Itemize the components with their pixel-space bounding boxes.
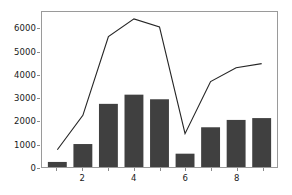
y-tick-mark xyxy=(37,168,40,169)
x-tick-label: 2 xyxy=(79,173,85,183)
y-tick-label: 6000 xyxy=(14,23,36,33)
y-tick-label: 5000 xyxy=(14,47,36,57)
series-layer xyxy=(42,12,277,167)
y-tick-mark xyxy=(37,75,40,76)
x-tick-mark xyxy=(185,168,186,171)
y-tick-mark xyxy=(37,98,40,99)
x-tick-mark-minor xyxy=(160,168,161,171)
bar xyxy=(227,120,246,167)
y-tick-label: 0 xyxy=(30,163,36,173)
y-tick-label: 4000 xyxy=(14,70,36,80)
x-tick-label: 6 xyxy=(182,173,188,183)
y-axis-tick-labels: 0100020003000400050006000 xyxy=(0,0,36,195)
y-tick-mark xyxy=(37,145,40,146)
bar xyxy=(125,95,144,167)
x-tick-mark-minor xyxy=(211,168,212,171)
x-tick-mark xyxy=(82,168,83,171)
x-tick-mark-minor xyxy=(108,168,109,171)
bar-series xyxy=(48,95,271,167)
bar xyxy=(176,154,195,167)
x-tick-mark-minor xyxy=(56,168,57,171)
plot-area xyxy=(41,11,278,168)
y-tick-label: 1000 xyxy=(14,140,36,150)
bar xyxy=(48,162,67,167)
x-tick-label: 4 xyxy=(131,173,137,183)
bar xyxy=(150,99,169,167)
y-tick-mark xyxy=(37,28,40,29)
y-tick-mark xyxy=(37,121,40,122)
x-tick-mark xyxy=(134,168,135,171)
bar xyxy=(201,127,220,167)
x-tick-mark xyxy=(237,168,238,171)
y-tick-mark xyxy=(37,52,40,53)
x-tick-mark-minor xyxy=(263,168,264,171)
bar xyxy=(99,104,118,167)
bar xyxy=(73,144,92,167)
y-tick-label: 3000 xyxy=(14,93,36,103)
bar xyxy=(252,118,271,167)
chart-figure: 0100020003000400050006000 2468 xyxy=(0,0,292,195)
x-tick-label: 8 xyxy=(234,173,240,183)
y-tick-label: 2000 xyxy=(14,116,36,126)
